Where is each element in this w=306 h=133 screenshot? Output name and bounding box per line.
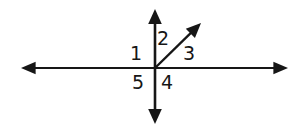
angle-diagram-figure: 1 2 3 4 5: [0, 0, 306, 133]
angle-label-2: 2: [157, 29, 169, 48]
angle-label-4: 4: [161, 73, 173, 92]
diagram-canvas: [0, 0, 306, 133]
angle-label-1: 1: [130, 44, 142, 63]
angle-label-5: 5: [132, 73, 144, 92]
angle-label-3: 3: [183, 44, 195, 63]
